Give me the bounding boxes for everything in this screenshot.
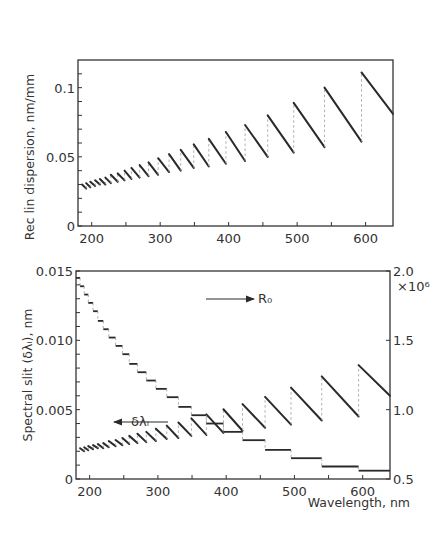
y-tick-label: 1.5 bbox=[393, 333, 414, 348]
sawtooth-segment bbox=[93, 445, 98, 448]
sawtooth-segment bbox=[226, 132, 245, 161]
upper-y-axis: 00.050.1 bbox=[46, 74, 82, 234]
sawtooth-segment bbox=[194, 144, 209, 166]
y-tick-label: 0.015 bbox=[36, 264, 73, 279]
sawtooth-segment bbox=[98, 444, 103, 448]
sawtooth-segment bbox=[167, 426, 179, 438]
sawtooth-segment bbox=[90, 182, 95, 186]
x-tick-label: 200 bbox=[77, 484, 102, 499]
y-tick-label: 0.1 bbox=[54, 81, 75, 96]
sawtooth-segment bbox=[116, 440, 123, 445]
sawtooth-segment bbox=[100, 179, 105, 185]
y-tick-label: 0 bbox=[65, 472, 73, 487]
sawtooth-segment bbox=[129, 436, 137, 443]
lower-left-y-axis: 00.0050.0100.015 bbox=[36, 264, 80, 487]
sawtooth-segment bbox=[122, 438, 129, 444]
sawtooth-segment bbox=[140, 165, 149, 176]
sawtooth-segment bbox=[294, 103, 325, 147]
x-tick-label: 200 bbox=[79, 231, 104, 246]
sawtooth-segment bbox=[80, 448, 84, 451]
upper-plot-frame bbox=[78, 60, 393, 226]
x-tick-label: 300 bbox=[148, 231, 173, 246]
sawtooth-segment bbox=[223, 409, 242, 430]
sawtooth-segment bbox=[245, 125, 268, 157]
lower-plot-frame bbox=[76, 271, 390, 479]
sawtooth-segment bbox=[209, 139, 226, 164]
sawtooth-segment bbox=[265, 397, 291, 425]
sawtooth-segment bbox=[95, 180, 100, 184]
sawtooth-segment bbox=[125, 171, 132, 179]
sawtooth-segment bbox=[84, 447, 88, 450]
y-tick-label: 1.0 bbox=[393, 403, 414, 418]
x-tick-label: 500 bbox=[282, 484, 307, 499]
sawtooth-segment bbox=[86, 183, 90, 187]
lower-chart-slit-resolving-power: 200300400500600 00.0050.0100.015 0.51.01… bbox=[20, 264, 430, 510]
sawtooth-segment bbox=[291, 388, 322, 421]
lower-y-axis-title: Spectral slit (δλᵢ), nm bbox=[20, 309, 35, 442]
x-tick-label: 400 bbox=[216, 231, 241, 246]
lower-x-axis-title: Wavelength, nm bbox=[308, 495, 410, 510]
series-annotations: R₀δλᵢ bbox=[114, 291, 272, 429]
upper-y-axis-title: Rec lin dispersion, nm/mm bbox=[22, 74, 37, 240]
y-tick-label: 0 bbox=[67, 219, 75, 234]
upper-chart-dispersion: 200300400500600 00.050.1 Rec lin dispers… bbox=[22, 60, 393, 246]
sawtooth-segment bbox=[322, 376, 359, 416]
right-axis-multiplier: ×10⁶ bbox=[397, 279, 430, 294]
sawtooth-segment bbox=[111, 175, 118, 182]
annotation-label: δλᵢ bbox=[131, 414, 149, 429]
sawtooth-segment bbox=[178, 423, 191, 436]
sawtooth-segment bbox=[149, 162, 159, 174]
sawtooth-segment bbox=[88, 446, 93, 449]
dispersion-sawtooth-series bbox=[82, 72, 393, 188]
y-tick-label: 2.0 bbox=[393, 264, 414, 279]
slit-and-r0-series bbox=[76, 278, 390, 471]
sawtooth-segment bbox=[169, 154, 181, 171]
sawtooth-segment bbox=[105, 178, 110, 184]
sawtooth-segment bbox=[82, 185, 86, 189]
figure: 200300400500600 00.050.1 Rec lin dispers… bbox=[0, 0, 434, 535]
sawtooth-segment bbox=[181, 150, 194, 168]
sawtooth-segment bbox=[362, 72, 394, 114]
y-tick-label: 0.5 bbox=[393, 472, 414, 487]
x-tick-label: 400 bbox=[214, 484, 239, 499]
sawtooth-segment bbox=[137, 434, 146, 442]
sawtooth-segment bbox=[325, 88, 362, 142]
sawtooth-segment bbox=[243, 404, 266, 428]
sawtooth-segment bbox=[118, 173, 125, 180]
x-tick-label: 500 bbox=[285, 231, 310, 246]
y-tick-label: 0.005 bbox=[36, 403, 73, 418]
x-tick-label: 300 bbox=[145, 484, 170, 499]
sawtooth-segment bbox=[359, 365, 390, 396]
sawtooth-segment bbox=[131, 168, 139, 178]
sawtooth-segment bbox=[158, 158, 169, 172]
sawtooth-segment bbox=[191, 418, 206, 435]
y-tick-label: 0.010 bbox=[36, 333, 73, 348]
sawtooth-segment bbox=[156, 429, 167, 439]
sawtooth-segment bbox=[103, 443, 108, 447]
y-tick-label: 0.05 bbox=[46, 150, 75, 165]
annotation-label: R₀ bbox=[258, 291, 272, 306]
sawtooth-segment bbox=[268, 115, 294, 152]
x-tick-label: 600 bbox=[353, 231, 378, 246]
sawtooth-segment bbox=[146, 432, 156, 441]
sawtooth-segment bbox=[109, 441, 116, 446]
